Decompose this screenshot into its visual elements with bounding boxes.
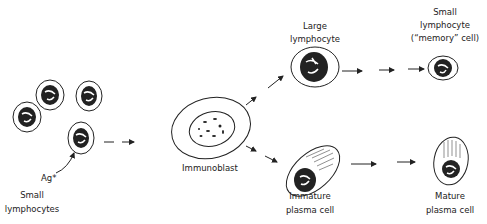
small-lymphocytes-label-line1: Small: [2, 189, 62, 201]
memory-cell-label-line1: Small: [405, 6, 485, 18]
immature-plasma-cell-label-line1: Immature: [275, 190, 345, 202]
small-lymphocyte-cell: [68, 122, 94, 154]
mature-plasma-cell-label-line2: plasma cell: [415, 204, 485, 216]
arrow-segment: [268, 76, 283, 88]
antigen-arrow: [56, 153, 74, 173]
large-lymphocyte-label-line2: lymphocyte: [285, 33, 345, 45]
memory-cell-label-line3: (“memory” cell): [405, 32, 485, 44]
small-lymphocyte-cell: [13, 102, 41, 132]
small-lymphocyte-cell: [36, 80, 64, 110]
arrow-segment: [265, 156, 277, 162]
immunoblast-cell: [165, 89, 258, 168]
large-lymphocyte-label-line1: Large: [285, 20, 345, 32]
mature-plasma-cell: [430, 134, 472, 187]
small-lymphocytes-label-line2: lymphocytes: [2, 203, 62, 215]
arrow-segment: [246, 97, 256, 105]
memory-cell-label-line2: lymphocyte: [405, 19, 485, 31]
small-lymphocyte-cell: [76, 81, 102, 111]
large-lymphocyte-cell: [291, 47, 339, 87]
memory-lymphocyte-cell: [428, 56, 458, 80]
antigen-label: Ag*: [41, 172, 71, 184]
arrow-segment: [246, 146, 256, 151]
immunoblast-label: Immunoblast: [175, 162, 245, 174]
immature-plasma-cell-label-line2: plasma cell: [275, 204, 345, 216]
mature-plasma-cell-label-line1: Mature: [415, 190, 485, 202]
